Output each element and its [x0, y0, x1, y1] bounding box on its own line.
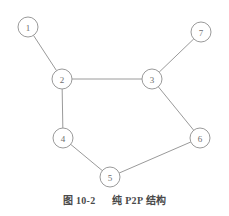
node-3[interactable]: 3	[142, 69, 162, 89]
network-graph: 1234567	[0, 0, 229, 216]
node-2[interactable]: 2	[52, 69, 72, 89]
figure-caption-number: 图 10-2	[63, 195, 96, 206]
node-label-2: 2	[60, 75, 65, 85]
node-label-7: 7	[199, 28, 204, 38]
edge-5-6	[119, 142, 191, 173]
node-4[interactable]: 4	[53, 128, 73, 148]
nodes-group: 1234567	[18, 17, 211, 187]
node-label-6: 6	[198, 134, 203, 144]
node-label-3: 3	[150, 75, 155, 85]
edge-3-6	[158, 87, 193, 130]
node-label-1: 1	[26, 23, 31, 33]
edge-4-5	[71, 144, 103, 170]
p2p-structure-figure: 1234567 图 10-2 纯 P2P 结构	[0, 0, 229, 216]
node-label-4: 4	[61, 134, 66, 144]
node-7[interactable]: 7	[191, 22, 211, 42]
edges-group	[33, 35, 193, 173]
node-label-5: 5	[108, 173, 113, 183]
edge-1-2	[33, 35, 56, 70]
figure-caption-title: 纯 P2P 结构	[112, 195, 166, 206]
node-5[interactable]: 5	[100, 167, 120, 187]
node-1[interactable]: 1	[18, 17, 38, 37]
figure-caption: 图 10-2 纯 P2P 结构	[0, 192, 229, 207]
edge-3-7	[159, 39, 194, 72]
edge-2-4	[62, 89, 63, 128]
node-6[interactable]: 6	[190, 128, 210, 148]
